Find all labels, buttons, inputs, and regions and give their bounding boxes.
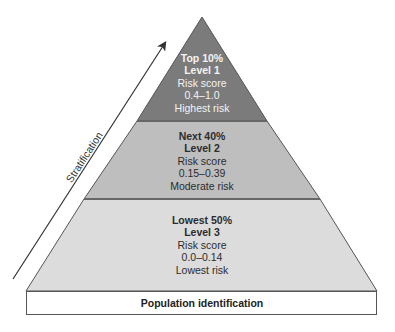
tier-2-risk: Moderate risk [132, 180, 272, 192]
tier-3-risk: Lowest risk [132, 264, 272, 276]
tier-3-score-range: 0.0–0.14 [132, 251, 272, 263]
tier-2-label: Next 40% Level 2 Risk score 0.15–0.39 Mo… [132, 130, 272, 192]
tier-3-level: Level 3 [132, 226, 272, 238]
tier-2-score-range: 0.15–0.39 [132, 167, 272, 179]
tier-1-score-range: 0.4–1.0 [132, 89, 272, 101]
tier-1-level: Level 1 [132, 64, 272, 76]
tier-1-risk: Highest risk [132, 102, 272, 114]
tier-3-share: Lowest 50% [132, 214, 272, 226]
tier-3-label: Lowest 50% Level 3 Risk score 0.0–0.14 L… [132, 214, 272, 276]
tier-1-score-label: Risk score [132, 77, 272, 89]
tier-2-level: Level 2 [132, 142, 272, 154]
tier-2-score-label: Risk score [132, 155, 272, 167]
tier-1-share: Top 10% [132, 52, 272, 64]
tier-1-label: Top 10% Level 1 Risk score 0.4–1.0 Highe… [132, 52, 272, 114]
population-identification-label: Population identification [27, 292, 377, 314]
tier-3-score-label: Risk score [132, 239, 272, 251]
tier-2-share: Next 40% [132, 130, 272, 142]
